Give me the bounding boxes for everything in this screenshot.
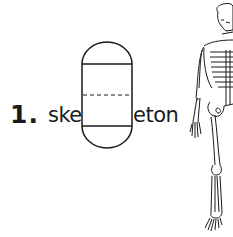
- skeleton-illustration: [0, 0, 233, 237]
